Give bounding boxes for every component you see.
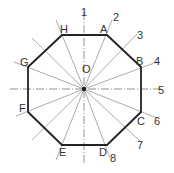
line-label-2: 2 bbox=[113, 11, 119, 23]
center-point bbox=[82, 87, 86, 91]
line-label-5: 5 bbox=[158, 84, 164, 96]
line-label-7: 7 bbox=[137, 139, 143, 151]
line-label-4: 4 bbox=[154, 55, 160, 67]
line-label-1: 1 bbox=[81, 6, 87, 18]
vertex-label-e: E bbox=[59, 146, 66, 158]
line-label-6: 6 bbox=[154, 115, 160, 127]
line-label-8: 8 bbox=[110, 152, 116, 164]
vertex-label-g: G bbox=[20, 56, 29, 68]
vertex-label-b: B bbox=[136, 55, 143, 67]
vertex-label-a: A bbox=[100, 23, 108, 35]
vertex-label-f: F bbox=[19, 102, 26, 114]
center-label-o: O bbox=[82, 63, 91, 75]
vertex-label-d: D bbox=[99, 146, 107, 158]
vertex-label-c: C bbox=[137, 115, 145, 127]
octagon-diagram: A B C D E F G H O 1 2 3 4 5 6 7 8 bbox=[0, 0, 174, 173]
vertex-label-h: H bbox=[60, 23, 68, 35]
line-label-3: 3 bbox=[137, 29, 143, 41]
